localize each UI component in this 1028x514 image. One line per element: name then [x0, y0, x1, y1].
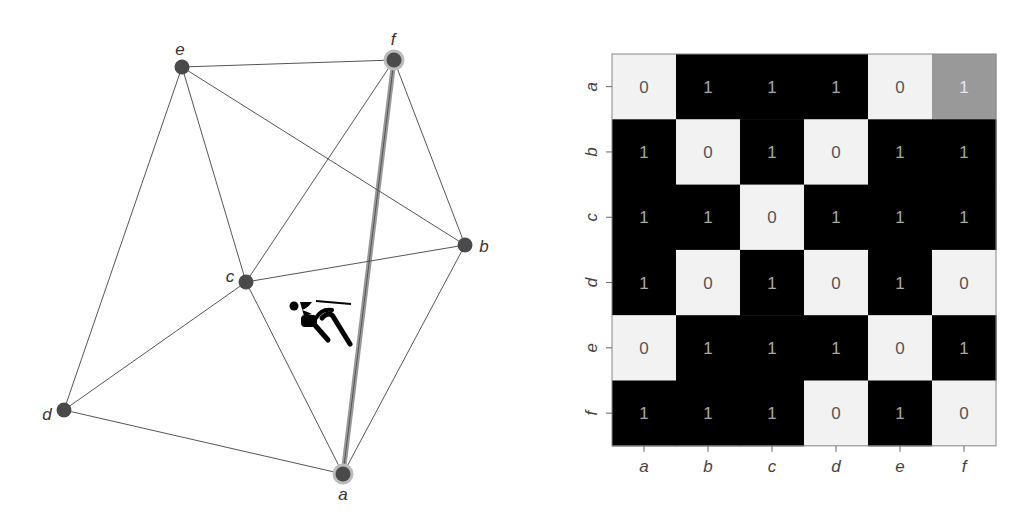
- node-label: a: [338, 485, 347, 504]
- matrix-cell-d-b: 0: [676, 250, 741, 316]
- edge-d-a: [64, 410, 343, 474]
- person-icon: [290, 301, 352, 344]
- node-d[interactable]: d: [42, 403, 71, 425]
- cell-value: 0: [895, 78, 904, 97]
- cell-value: 1: [767, 143, 776, 162]
- cell-value: 1: [767, 78, 776, 97]
- edge-c-b: [246, 245, 465, 282]
- cell-value: 1: [703, 339, 712, 358]
- cell-value: 1: [767, 339, 776, 358]
- matrix-cell-f-e: 1: [868, 381, 933, 447]
- cell-value: 0: [831, 143, 840, 162]
- matrix-cell-e-f: 1: [932, 315, 997, 381]
- matrix-cell-a-a: 0: [612, 54, 677, 120]
- cell-value: 0: [959, 404, 968, 423]
- cell-value: 1: [959, 339, 968, 358]
- row-label-b: b: [582, 147, 601, 156]
- matrix-cell-e-e: 0: [868, 315, 933, 381]
- matrix-cell-b-a: 1: [612, 119, 677, 185]
- matrix-cell-f-a: 1: [612, 381, 677, 447]
- matrix-cell-f-b: 1: [676, 381, 741, 447]
- node-dot: [175, 60, 190, 75]
- matrix-cell-c-d: 1: [804, 185, 869, 251]
- matrix-cell-e-a: 0: [612, 315, 677, 381]
- node-dot: [458, 238, 473, 253]
- node-dot: [239, 275, 254, 290]
- matrix-cell-a-e: 0: [868, 54, 933, 120]
- edge-e-d: [64, 67, 182, 410]
- matrix-cell-b-b: 0: [676, 119, 741, 185]
- matrix-cell-a-b: 1: [676, 54, 741, 120]
- node-label: e: [175, 40, 184, 59]
- cell-value: 0: [703, 143, 712, 162]
- cell-value: 1: [959, 143, 968, 162]
- cell-value: 0: [831, 274, 840, 293]
- col-label-b: b: [703, 457, 712, 476]
- matrix-cell-d-d: 0: [804, 250, 869, 316]
- edge-e-f: [182, 60, 394, 67]
- matrix-cell-d-e: 1: [868, 250, 933, 316]
- node-dot: [57, 403, 72, 418]
- cell-value: 0: [767, 208, 776, 227]
- matrix-cell-d-a: 1: [612, 250, 677, 316]
- cell-value: 0: [959, 274, 968, 293]
- node-label: d: [42, 405, 52, 424]
- node-dot: [387, 53, 402, 68]
- matrix-cell-b-e: 1: [868, 119, 933, 185]
- matrix-cell-c-c: 0: [740, 185, 805, 251]
- row-label-a: a: [582, 82, 601, 91]
- matrix-cell-a-c: 1: [740, 54, 805, 120]
- col-label-e: e: [895, 457, 904, 476]
- adjacency-matrix-panel: 011101101011110111101010011101111010abcd…: [514, 0, 1028, 514]
- cell-value: 1: [639, 404, 648, 423]
- cell-value: 1: [703, 78, 712, 97]
- matrix-cell-e-d: 1: [804, 315, 869, 381]
- matrix-cell-d-c: 1: [740, 250, 805, 316]
- col-label-f: f: [962, 457, 969, 476]
- edge-f-a: [343, 60, 394, 474]
- matrix-cell-a-d: 1: [804, 54, 869, 120]
- matrix-cell-f-f: 0: [932, 381, 997, 447]
- graph-panel: abcdef: [0, 0, 514, 514]
- matrix-cell-c-a: 1: [612, 185, 677, 251]
- row-label-f: f: [582, 409, 601, 416]
- cell-value: 1: [895, 143, 904, 162]
- row-label-c: c: [582, 213, 601, 222]
- edge-e-b: [182, 67, 465, 245]
- cell-value: 1: [831, 339, 840, 358]
- matrix-cell-e-b: 1: [676, 315, 741, 381]
- col-label-d: d: [831, 457, 841, 476]
- matrix-cell-f-c: 1: [740, 381, 805, 447]
- node-dot: [336, 467, 351, 482]
- cell-value: 1: [639, 143, 648, 162]
- edge-c-d: [64, 282, 246, 410]
- cell-value: 1: [767, 274, 776, 293]
- cell-value: 1: [959, 78, 968, 97]
- graph-canvas: abcdef: [0, 0, 514, 514]
- cell-value: 1: [767, 404, 776, 423]
- matrix-cell-f-d: 0: [804, 381, 869, 447]
- cell-value: 0: [895, 339, 904, 358]
- cell-value: 1: [895, 208, 904, 227]
- cell-value: 0: [831, 404, 840, 423]
- cell-value: 1: [831, 78, 840, 97]
- edge-e-c: [182, 67, 246, 282]
- matrix-cell-d-f: 0: [932, 250, 997, 316]
- cell-value: 1: [703, 208, 712, 227]
- node-label: c: [226, 267, 235, 286]
- cell-value: 0: [639, 339, 648, 358]
- edge-f-b: [394, 60, 465, 245]
- node-b[interactable]: b: [458, 237, 489, 256]
- row-label-d: d: [582, 277, 601, 287]
- matrix-cell-b-f: 1: [932, 119, 997, 185]
- node-e[interactable]: e: [175, 40, 190, 75]
- cell-value: 1: [639, 274, 648, 293]
- node-a[interactable]: a: [333, 464, 354, 505]
- node-f[interactable]: f: [384, 30, 405, 71]
- col-label-c: c: [768, 457, 777, 476]
- col-label-a: a: [639, 457, 648, 476]
- node-label: f: [391, 30, 398, 49]
- cell-value: 0: [703, 274, 712, 293]
- cell-value: 1: [639, 208, 648, 227]
- cell-value: 1: [895, 404, 904, 423]
